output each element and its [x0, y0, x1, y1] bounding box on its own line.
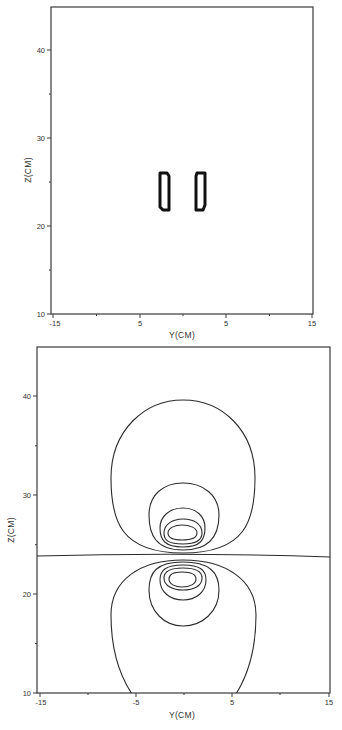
y-axis-label: Z(CM) [6, 517, 16, 543]
contour-lines [37, 400, 330, 694]
y-tick-label: 30 [37, 134, 45, 143]
upper-contour-4 [164, 519, 202, 544]
x-tick-label: 15 [308, 319, 316, 328]
y-axis-label: Z(CM) [23, 157, 33, 183]
x-axis-label: Y(CM) [169, 330, 195, 340]
y-tick-label: 20 [23, 590, 31, 599]
y-axis-tick-labels: 10 20 30 40 [23, 392, 31, 698]
right-coil-shape [196, 173, 205, 210]
plot-frame [37, 347, 330, 693]
x-axis-ticks [40, 693, 329, 697]
x-axis-tick-labels: -15 5 5 15 [50, 319, 317, 328]
x-axis-tick-labels: -15 -5 5 15 [36, 698, 334, 707]
lower-contour-3 [160, 565, 206, 600]
lower-contour-2 [149, 562, 219, 626]
coil-cross-section-plot: 10 20 30 40 Z(CM) -15 5 5 15 Y(CM) [0, 0, 342, 345]
x-tick-label: -15 [36, 698, 47, 707]
x-tick-label: -15 [50, 319, 61, 328]
x-tick-label: 5 [230, 698, 234, 707]
left-coil-shape [160, 173, 169, 210]
y-tick-label: 10 [37, 310, 45, 319]
upper-contour-3 [160, 508, 205, 547]
separatrix-line [37, 554, 330, 557]
x-tick-label: 5 [138, 319, 142, 328]
y-tick-label: 30 [23, 491, 31, 500]
x-tick-label: 5 [224, 319, 228, 328]
y-tick-label: 20 [37, 222, 45, 231]
y-axis-ticks [33, 396, 37, 693]
upper-contour-2 [149, 483, 219, 550]
plot-frame [51, 7, 313, 314]
y-axis-tick-labels: 10 20 30 40 [37, 46, 45, 319]
upper-contour-1 [111, 400, 255, 553]
lower-contour-1 [111, 560, 256, 694]
x-axis-label: Y(CM) [169, 710, 195, 720]
y-tick-label: 10 [23, 689, 31, 698]
y-tick-label: 40 [23, 392, 31, 401]
upper-contour-5 [168, 525, 197, 540]
lower-contour-4 [164, 568, 202, 590]
x-tick-label: -5 [133, 698, 140, 707]
y-tick-label: 40 [37, 46, 45, 55]
x-tick-label: 15 [325, 698, 333, 707]
lower-contour-5 [169, 572, 196, 587]
